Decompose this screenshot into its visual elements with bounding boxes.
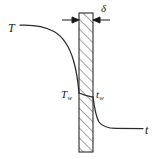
label-hot-wall-surface-temperature: Tw	[61, 89, 72, 100]
arrowhead-right-pointing	[72, 17, 79, 23]
label-hot-wall-subscript: w	[67, 94, 72, 101]
diagram-canvas	[0, 0, 156, 159]
label-cold-wall-subscript: w	[99, 94, 104, 101]
hot-side-temperature-curve	[20, 25, 79, 93]
label-wall-thickness-symbol: δ	[101, 2, 106, 14]
wall-body	[79, 13, 93, 152]
wall-rectangle	[79, 13, 93, 152]
label-hot-fluid-symbol: T	[8, 21, 15, 35]
label-cold-fluid-symbol: t	[145, 123, 148, 137]
label-hot-fluid-temperature: T	[8, 22, 15, 34]
heat-transfer-wall-diagram: T δ Tw tw t	[0, 0, 156, 159]
label-wall-thickness: δ	[101, 3, 106, 14]
label-cold-fluid-temperature: t	[145, 124, 148, 136]
cold-side-temperature-curve	[93, 97, 143, 128]
label-cold-wall-surface-temperature: tw	[96, 89, 104, 100]
arrowhead-left-pointing	[93, 17, 100, 23]
